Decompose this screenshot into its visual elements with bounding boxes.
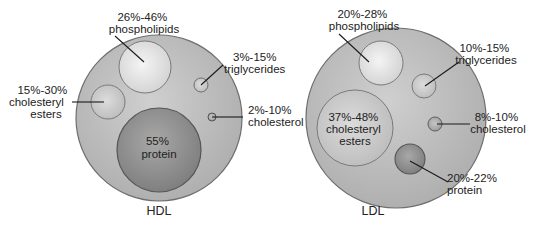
ldl-title: LDL: [362, 204, 385, 218]
hdl-phospholipids-sphere: [119, 41, 171, 93]
ldl-protein-label: 20%-22% protein: [447, 172, 500, 196]
hdl-title: HDL: [146, 204, 171, 218]
ldl-protein-sphere: [395, 144, 425, 174]
hdl-cholesterol-label: 2%-10% cholesterol: [248, 104, 304, 128]
hdl-particle: 26%-46% phospholipids 3%-15% triglycerid…: [9, 11, 304, 218]
ldl-particle: 20%-28% phospholipids 10%-15% triglyceri…: [306, 8, 526, 218]
ldl-phospholipids-sphere: [359, 41, 403, 85]
ldl-triglycerides-label: 10%-15% triglycerides: [455, 42, 517, 66]
hdl-triglycerides-label: 3%-15% triglycerides: [224, 51, 286, 75]
lipoprotein-composition-diagram: 26%-46% phospholipids 3%-15% triglycerid…: [0, 0, 535, 225]
ldl-cholesterol-label: 8%-10% cholesterol: [470, 111, 526, 135]
ldl-phospholipids-label: 20%-28% phospholipids: [329, 8, 400, 32]
hdl-protein-label: 55% protein: [141, 135, 176, 160]
hdl-cholesteryl-esters-label: 15%-30% cholesteryl esters: [9, 84, 71, 120]
hdl-phospholipids-label: 26%-46% phospholipids: [109, 11, 180, 35]
ldl-triglycerides-sphere: [412, 74, 436, 98]
